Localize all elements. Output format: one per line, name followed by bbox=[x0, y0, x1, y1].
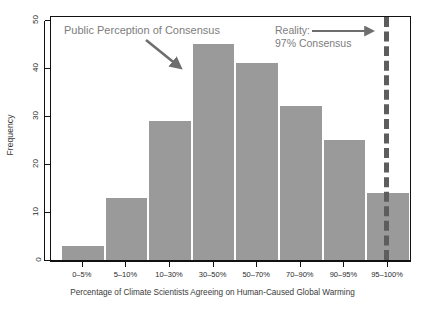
bar bbox=[279, 106, 323, 260]
annotation-public-perception-label: Public Perception of Consensus bbox=[64, 24, 220, 36]
y-axis-tick-label: 20 bbox=[18, 159, 40, 168]
x-axis-tick bbox=[169, 262, 170, 267]
x-axis-tick bbox=[387, 262, 388, 267]
y-axis-line bbox=[44, 21, 45, 261]
y-axis-title-label: Frequency bbox=[5, 114, 15, 155]
x-axis-tick bbox=[343, 262, 344, 267]
y-axis-tick-label: 10 bbox=[18, 207, 40, 216]
x-axis-tick bbox=[256, 262, 257, 267]
x-axis-tick bbox=[125, 262, 126, 267]
x-axis-tick bbox=[213, 262, 214, 267]
x-axis-tick bbox=[300, 262, 301, 267]
annotation-reality-block: Reality: 97% Consensus bbox=[275, 24, 351, 50]
bar bbox=[61, 246, 105, 260]
x-axis-tick-label: 95–100% bbox=[357, 270, 417, 279]
annotation-reality-line1: Reality: bbox=[275, 24, 351, 37]
bar bbox=[235, 63, 279, 260]
bar bbox=[105, 198, 149, 260]
bar bbox=[323, 140, 367, 260]
y-axis-title: Frequency bbox=[2, 0, 18, 270]
x-axis-tick bbox=[82, 262, 83, 267]
bar bbox=[148, 121, 192, 260]
y-axis-tick-label: 50 bbox=[18, 15, 40, 24]
y-axis-tick-label: 0 bbox=[18, 255, 40, 264]
y-axis-tick-label: 30 bbox=[18, 111, 40, 120]
histogram-figure: Frequency 01020304050 0–5%5–10%10–30%30–… bbox=[0, 0, 425, 313]
x-axis-line bbox=[50, 261, 411, 262]
y-axis-tick-label: 40 bbox=[18, 63, 40, 72]
bar bbox=[192, 44, 236, 260]
plot-area bbox=[50, 16, 411, 261]
x-axis-title: Percentage of Climate Scientists Agreein… bbox=[0, 288, 425, 297]
annotation-reality-line2: 97% Consensus bbox=[275, 37, 351, 50]
reality-reference-line bbox=[384, 17, 389, 260]
